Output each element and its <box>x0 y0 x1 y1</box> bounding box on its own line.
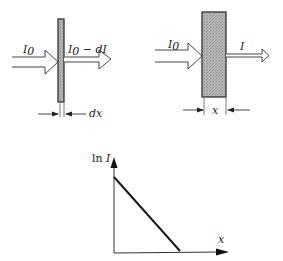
thickness-dx-label: dx <box>89 107 103 120</box>
incident-arrow-icon <box>12 50 58 74</box>
x-axis-arrow-icon <box>216 249 229 256</box>
thin-slab <box>58 19 64 102</box>
incident-intensity-label: I0 <box>167 38 179 53</box>
transmitted-arrow-icon <box>226 49 269 62</box>
attenuation-line <box>114 177 180 251</box>
ln-intensity-graph: ln I x <box>92 152 229 256</box>
transmitted-intensity-label: I0 − dI <box>67 43 108 58</box>
y-axis-label: ln I <box>92 152 111 165</box>
x-axis-label: x <box>218 233 225 246</box>
transmitted-intensity-label: I <box>239 40 245 53</box>
y-axis-arrow-icon <box>111 157 118 168</box>
x-axis <box>114 252 220 253</box>
absorption-diagram: I0 I0 − dI dx I0 I x ln I x <box>0 0 283 261</box>
thin-slab-panel: I0 I0 − dI dx <box>12 19 111 120</box>
thick-slab-panel: I0 I x <box>155 12 269 117</box>
incident-intensity-label: I0 <box>22 43 34 58</box>
thickness-x-label: x <box>212 104 219 117</box>
thick-slab <box>202 12 226 97</box>
